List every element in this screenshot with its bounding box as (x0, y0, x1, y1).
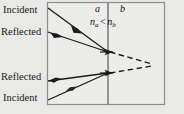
label-incident-bottom: Incident (3, 93, 37, 104)
optics-diagram-figure: Incident Reflected Reflected Incident a … (0, 0, 184, 114)
less-than-symbol: < (99, 16, 108, 27)
label-medium-a: a (95, 4, 100, 14)
label-reflected-top: Reflected (1, 27, 41, 38)
label-incident-top: Incident (3, 5, 37, 16)
index-n-a-subscript: a (95, 21, 99, 29)
index-n-b-subscript: b (112, 21, 116, 29)
label-reflected-bottom: Reflected (1, 72, 41, 83)
refractive-index-relation: na<nb (90, 17, 116, 27)
label-medium-b: b (120, 4, 125, 14)
